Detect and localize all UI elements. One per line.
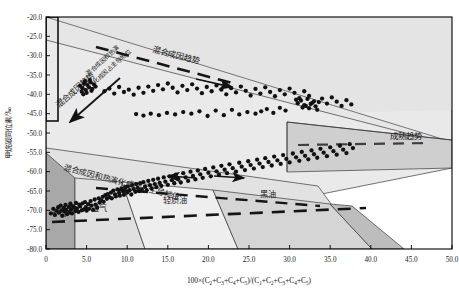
data-point (297, 159, 301, 163)
data-point (180, 84, 184, 88)
x-tick-label: 0 (44, 256, 48, 264)
data-point (258, 91, 262, 95)
data-point (175, 90, 179, 94)
data-point (151, 89, 155, 93)
data-point (227, 162, 231, 166)
data-point (203, 167, 207, 171)
data-point (190, 82, 194, 86)
y-tick-label: -50.0 (27, 130, 42, 138)
data-point (129, 192, 133, 196)
data-point (341, 147, 345, 151)
data-point (161, 87, 165, 91)
data-point (162, 175, 166, 179)
data-point (141, 113, 145, 117)
data-point (166, 183, 170, 187)
data-point (294, 98, 298, 102)
data-point (214, 108, 218, 112)
data-point (348, 142, 352, 146)
data-point (322, 151, 326, 155)
data-point (284, 157, 288, 161)
data-point (229, 86, 233, 90)
label-light-oil: 轻质油 (163, 195, 187, 205)
data-point (205, 85, 209, 89)
x-tick-label: 10.0 (121, 256, 134, 264)
y-tick-label: -65.0 (27, 188, 42, 196)
data-point (176, 177, 180, 181)
data-point (275, 158, 279, 162)
data-point (186, 179, 190, 183)
x-tick-label: 50.0 (446, 256, 459, 264)
label-dry-gas: 干气 (50, 208, 66, 218)
data-point (141, 91, 145, 95)
data-point (268, 90, 272, 94)
data-point (179, 180, 183, 184)
data-point (351, 146, 355, 150)
y-tick-label: -80.0 (27, 246, 42, 254)
data-point (157, 113, 161, 117)
data-point (211, 165, 215, 169)
x-tick-label: 25.0 (243, 256, 256, 264)
data-point (272, 154, 276, 158)
data-point (244, 89, 248, 93)
data-point (266, 160, 270, 164)
geochemistry-scatter-chart: 05.010.015.020.025.030.035.040.045.050.0… (0, 0, 459, 296)
data-point (302, 89, 306, 93)
data-point (224, 92, 228, 96)
data-point (193, 177, 197, 181)
data-point (181, 171, 185, 175)
data-point (246, 159, 250, 163)
data-point (257, 161, 261, 165)
data-point (283, 92, 287, 96)
data-point (328, 145, 332, 149)
data-point (231, 166, 235, 170)
data-point (344, 151, 348, 155)
data-point (248, 163, 252, 167)
data-point (111, 188, 115, 192)
data-point (283, 108, 287, 112)
data-point (219, 88, 223, 92)
data-point (259, 109, 263, 113)
data-point (339, 104, 343, 108)
y-tick-label: -60.0 (27, 168, 42, 176)
data-point (234, 90, 238, 94)
data-point (349, 102, 353, 106)
data-point (195, 86, 199, 90)
data-point (307, 106, 311, 110)
data-point (219, 164, 223, 168)
data-point (189, 112, 193, 116)
x-tick-label: 20.0 (202, 256, 215, 264)
data-point (325, 101, 329, 105)
data-point (197, 109, 201, 113)
label-maturity-trend: 成熟趋势 (390, 131, 423, 141)
data-point (263, 85, 267, 89)
y-tick-label: -55.0 (27, 149, 42, 157)
data-point (188, 170, 192, 174)
data-point (315, 108, 319, 112)
y-tick-label: -35.0 (27, 72, 42, 80)
data-point (303, 154, 307, 158)
data-point (252, 166, 256, 170)
data-point (315, 156, 319, 160)
data-point (156, 176, 160, 180)
data-point (185, 88, 189, 92)
y-tick-label: -70.0 (27, 207, 42, 215)
data-point (81, 92, 85, 96)
data-point (107, 86, 111, 90)
data-point (335, 100, 339, 104)
data-point (253, 87, 257, 91)
data-point (200, 91, 204, 95)
data-point (201, 176, 205, 180)
data-point (325, 154, 329, 158)
data-point (243, 168, 247, 172)
data-point (278, 106, 282, 110)
data-point (110, 196, 114, 200)
y-axis-title: 甲烷碳同位素/‰ (4, 107, 13, 159)
data-point (261, 165, 265, 169)
data-point (149, 112, 153, 116)
data-point (209, 174, 213, 178)
y-tick-label: -75.0 (27, 226, 42, 234)
data-point (117, 85, 121, 89)
data-point (136, 86, 140, 90)
data-point (239, 84, 243, 88)
data-point (237, 161, 241, 165)
